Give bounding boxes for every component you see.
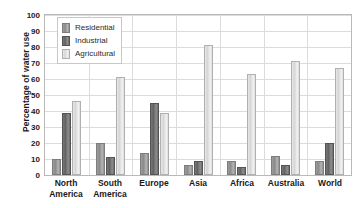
bar-agricultural[interactable] xyxy=(247,74,256,175)
bar-industrial[interactable] xyxy=(325,143,334,175)
legend-item-residential[interactable]: Residential xyxy=(62,21,115,34)
bar-agricultural[interactable] xyxy=(204,45,213,175)
y-axis-tick-label: 100 xyxy=(18,11,40,20)
x-axis-tick-label-line: South xyxy=(88,178,132,189)
bar-industrial[interactable] xyxy=(194,161,203,175)
bar-residential[interactable] xyxy=(96,143,105,175)
bar-residential[interactable] xyxy=(140,153,149,175)
x-axis-tick-label-line: North xyxy=(44,178,88,189)
x-axis-tick-label-line: Australia xyxy=(264,178,308,189)
bar-residential[interactable] xyxy=(184,165,193,175)
x-axis-tick-label-line: World xyxy=(308,178,352,189)
legend-item-agricultural[interactable]: Agricultural xyxy=(62,47,115,60)
x-axis-tick-label: SouthAmerica xyxy=(88,178,132,200)
bar-residential[interactable] xyxy=(52,159,61,175)
x-axis-tick-label-line: Africa xyxy=(220,178,264,189)
bar-chart: Percentage of water use 1009080706050403… xyxy=(0,0,359,208)
y-axis-tick-label: 0 xyxy=(18,171,40,180)
y-axis-tick-label: 20 xyxy=(18,139,40,148)
bar-agricultural[interactable] xyxy=(160,113,169,175)
bar-agricultural[interactable] xyxy=(335,68,344,175)
y-axis-tick-label: 40 xyxy=(18,107,40,116)
x-axis-tick-label: Europe xyxy=(132,178,176,200)
legend: ResidentialIndustrialAgricultural xyxy=(57,17,122,64)
y-axis-tick-label: 50 xyxy=(18,91,40,100)
bar-agricultural[interactable] xyxy=(116,77,125,175)
bar-group xyxy=(132,15,176,175)
x-axis-tick-labels: NorthAmericaSouthAmericaEuropeAsiaAfrica… xyxy=(44,178,352,200)
bar-industrial[interactable] xyxy=(150,103,159,175)
legend-swatch-agricultural-icon xyxy=(62,49,70,59)
bar-group xyxy=(176,15,220,175)
y-axis-tick-label: 10 xyxy=(18,155,40,164)
bar-industrial[interactable] xyxy=(281,165,290,175)
bar-group xyxy=(264,15,308,175)
y-axis-tick-labels: 1009080706050403020100 xyxy=(18,14,40,176)
legend-swatch-residential-icon xyxy=(62,23,70,33)
bar-industrial[interactable] xyxy=(106,157,115,175)
bar-industrial[interactable] xyxy=(237,167,246,175)
x-axis-tick-label: Asia xyxy=(176,178,220,200)
y-axis-tick-label: 80 xyxy=(18,43,40,52)
y-axis-tick-label: 90 xyxy=(18,27,40,36)
bar-group xyxy=(307,15,351,175)
bar-residential[interactable] xyxy=(271,156,280,175)
y-axis-tick-label: 60 xyxy=(18,75,40,84)
y-axis-tick-label: 70 xyxy=(18,59,40,68)
x-axis-tick-label-line: Asia xyxy=(176,178,220,189)
bar-agricultural[interactable] xyxy=(291,61,300,175)
bar-agricultural[interactable] xyxy=(72,101,81,175)
x-axis-tick-label-line: America xyxy=(44,189,88,200)
bar-group xyxy=(220,15,264,175)
bar-residential[interactable] xyxy=(315,161,324,175)
legend-swatch-industrial-icon xyxy=(62,36,70,46)
x-axis-tick-label-line: Europe xyxy=(132,178,176,189)
legend-label: Residential xyxy=(75,23,115,32)
legend-item-industrial[interactable]: Industrial xyxy=(62,34,115,47)
legend-label: Industrial xyxy=(75,36,107,45)
y-axis-tick-label: 30 xyxy=(18,123,40,132)
legend-label: Agricultural xyxy=(75,49,115,58)
bar-industrial[interactable] xyxy=(62,113,71,175)
x-axis-tick-label: NorthAmerica xyxy=(44,178,88,200)
x-axis-tick-label-line: America xyxy=(88,189,132,200)
bar-residential[interactable] xyxy=(227,161,236,175)
x-axis-tick-label: World xyxy=(308,178,352,200)
x-axis-tick-label: Australia xyxy=(264,178,308,200)
x-axis-tick-label: Africa xyxy=(220,178,264,200)
